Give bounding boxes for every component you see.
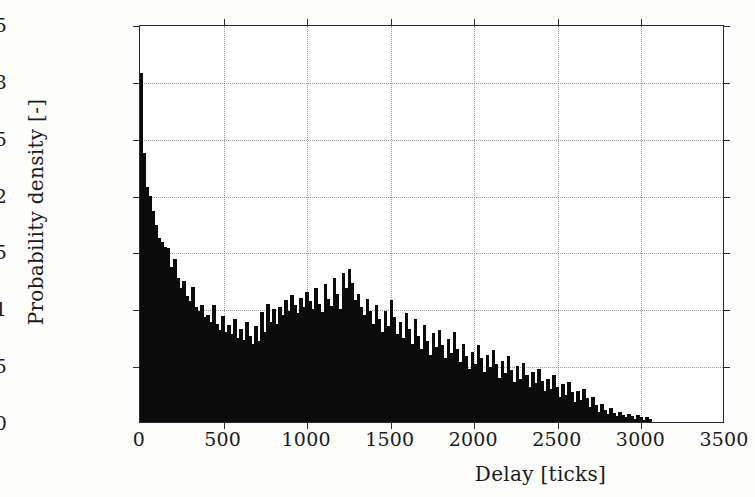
y-axis-tick xyxy=(723,26,730,27)
x-axis-tick xyxy=(307,19,308,26)
x-axis-tick xyxy=(224,19,225,26)
y-axis-tick xyxy=(133,367,140,368)
x-axis-tick xyxy=(474,19,475,26)
histogram-bar xyxy=(648,419,651,422)
x-axis-title: Delay [ticks] xyxy=(0,462,755,486)
y-axis-tick xyxy=(133,26,140,27)
y-tick-label: 0 xyxy=(0,414,7,433)
y-axis-tick xyxy=(723,367,730,368)
x-axis-tick xyxy=(391,19,392,26)
y-axis-tick xyxy=(723,253,730,254)
plot-area xyxy=(139,25,724,423)
y-axis-tick xyxy=(723,197,730,198)
y-axis-tick xyxy=(133,310,140,311)
scan-bleed-artifact xyxy=(60,0,480,10)
y-axis-tick xyxy=(723,83,730,84)
y-axis-tick xyxy=(133,253,140,254)
y-axis-tick xyxy=(723,140,730,141)
y-tick-label: 0.01 xyxy=(0,300,7,319)
x-tick-label: 3500 xyxy=(664,430,755,449)
y-axis-tick xyxy=(133,83,140,84)
histogram-bars xyxy=(140,26,723,422)
y-axis-title: Probability density [-] xyxy=(24,92,48,332)
y-tick-label: 0.02 xyxy=(0,187,7,206)
x-axis-title-text: Delay [ticks] xyxy=(475,462,606,486)
y-tick-label: 0.035 xyxy=(0,16,7,35)
y-axis-tick xyxy=(133,197,140,198)
y-tick-label: 0.005 xyxy=(0,357,7,376)
y-axis-tick xyxy=(133,140,140,141)
y-axis-tick xyxy=(723,310,730,311)
x-axis-tick xyxy=(558,19,559,26)
y-tick-label: 0.015 xyxy=(0,243,7,262)
x-axis-tick xyxy=(641,19,642,26)
histogram-figure: 00.0050.010.0150.020.0250.030.035 050010… xyxy=(0,0,755,497)
y-tick-label: 0.03 xyxy=(0,73,7,92)
y-tick-label: 0.025 xyxy=(0,130,7,149)
